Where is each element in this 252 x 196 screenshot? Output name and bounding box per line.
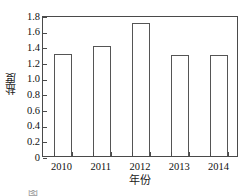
y-tick-label: 1.8 [18, 11, 40, 22]
y-tick-mark [43, 158, 47, 159]
y-tick-mark [43, 17, 47, 18]
x-tick-mark [228, 152, 229, 156]
y-tick-label: 0.2 [18, 136, 40, 147]
y-tick-label: 0.8 [18, 89, 40, 100]
salinity-by-year-bar-chart: 盐度 00.20.40.60.81.01.21.41.61.8 20102011… [0, 0, 252, 196]
bar-2010 [54, 54, 72, 156]
x-tick-mark [189, 152, 190, 156]
x-tick-label: 2010 [51, 160, 72, 173]
bar-2013 [171, 55, 189, 156]
y-tick-mark [43, 64, 47, 65]
plot-inner [43, 17, 237, 156]
bar-2012 [132, 23, 150, 156]
x-tick-mark [72, 152, 73, 156]
y-tick-label: 1.6 [18, 26, 40, 37]
y-tick-label: 0 [18, 152, 40, 163]
x-tick-mark [93, 152, 94, 156]
y-tick-label: 0.4 [18, 120, 40, 131]
y-tick-label: 0.6 [18, 105, 40, 116]
plot-area [42, 16, 238, 157]
x-tick-mark [132, 152, 133, 156]
y-tick-mark [43, 127, 47, 128]
x-tick-mark [54, 152, 55, 156]
x-axis-tick-labels: 20102011201220132014 [42, 160, 238, 174]
y-tick-mark [43, 48, 47, 49]
y-tick-label: 1.2 [18, 58, 40, 69]
bar-2014 [210, 55, 228, 156]
y-axis-tick-labels: 00.20.40.60.81.01.21.41.61.8 [18, 10, 40, 162]
x-tick-mark [210, 152, 211, 156]
y-tick-mark [43, 33, 47, 34]
x-tick-mark [171, 152, 172, 156]
y-tick-mark [43, 142, 47, 143]
y-tick-label: 1.0 [18, 73, 40, 84]
x-axis-title: 年份 [42, 174, 238, 187]
x-tick-label: 2014 [208, 160, 229, 173]
y-tick-mark [43, 80, 47, 81]
figure-caption-clipped: 图 [0, 190, 252, 196]
y-tick-label: 1.4 [18, 42, 40, 53]
bar-2011 [93, 46, 111, 156]
y-tick-mark [43, 95, 47, 96]
x-tick-mark [150, 152, 151, 156]
y-tick-mark [43, 111, 47, 112]
x-tick-label: 2011 [90, 160, 111, 173]
x-tick-mark [111, 152, 112, 156]
x-tick-label: 2012 [130, 160, 151, 173]
x-tick-label: 2013 [169, 160, 190, 173]
figure-caption-text: 图 [28, 190, 238, 196]
